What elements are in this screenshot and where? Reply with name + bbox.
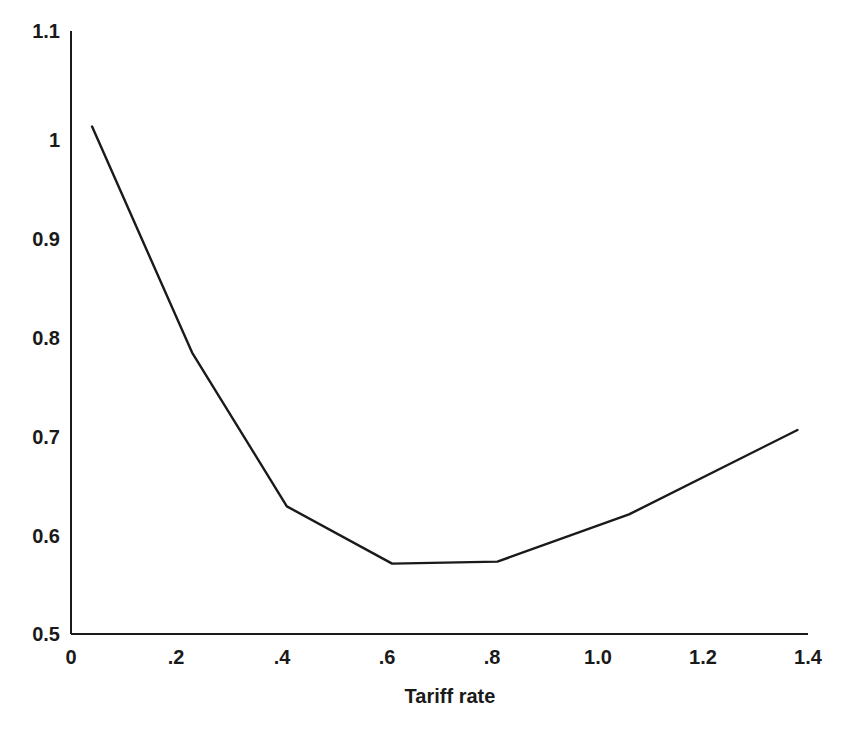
- y-tick-label-0-7: 0.7: [8, 427, 60, 447]
- x-tick-label-1-4: 1.4: [794, 647, 822, 667]
- data-line-welfare: [92, 126, 797, 563]
- axes-group: [71, 31, 808, 634]
- y-tick-label-1-1: 1.1: [8, 21, 60, 41]
- x-tick-label-0-4: .4: [274, 647, 291, 667]
- y-tick-label-1: 1: [8, 130, 60, 150]
- y-tick-label-0-8: 0.8: [8, 328, 60, 348]
- x-axis-title: Tariff rate: [405, 685, 496, 708]
- series-group: [92, 126, 797, 563]
- y-tick-label-0-6: 0.6: [8, 526, 60, 546]
- x-tick-label-0-2: .2: [168, 647, 185, 667]
- x-tick-label-1-2: 1.2: [689, 647, 717, 667]
- x-tick-label-0-8: .8: [484, 647, 501, 667]
- y-tick-label-0-9: 0.9: [8, 229, 60, 249]
- x-tick-label-1-0: 1.0: [584, 647, 612, 667]
- plot-area: [0, 0, 846, 734]
- x-tick-label-0-6: .6: [379, 647, 396, 667]
- chart-figure: 1.1 1 0.9 0.8 0.7 0.6 0.5 0 .2 .4 .6 .8 …: [0, 0, 846, 734]
- y-tick-label-0-5: 0.5: [8, 624, 60, 644]
- x-tick-label-0: 0: [65, 647, 76, 667]
